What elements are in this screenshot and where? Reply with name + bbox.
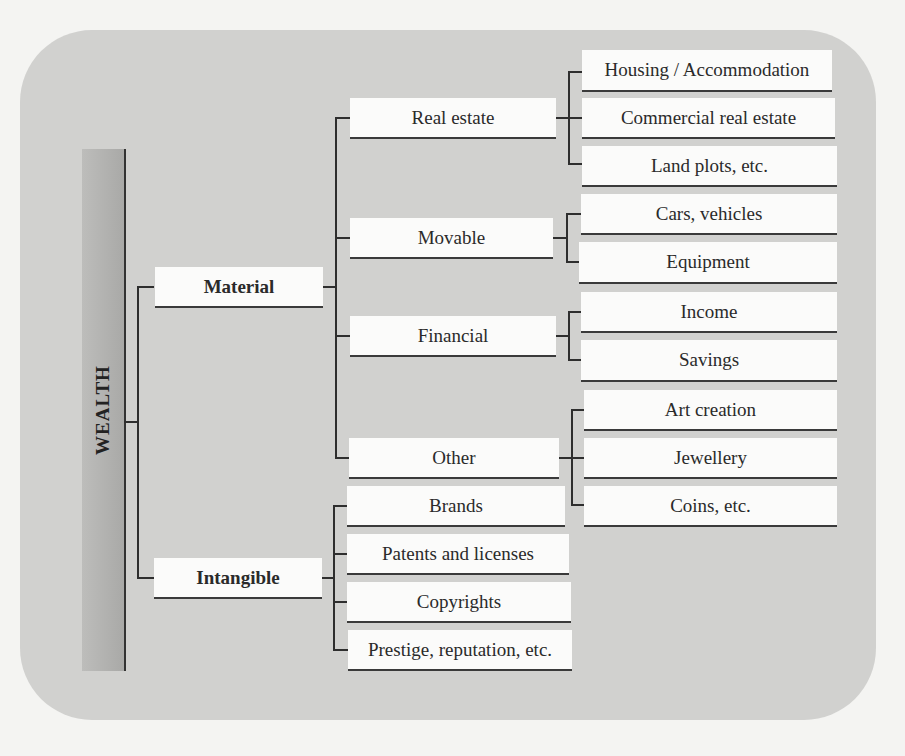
node-copyrights: Copyrights: [347, 582, 571, 623]
connector: [566, 213, 582, 215]
node-label: Real estate: [412, 107, 495, 129]
node-coins: Coins, etc.: [584, 486, 837, 527]
node-label: Art creation: [665, 399, 756, 421]
node-land-plots: Land plots, etc.: [582, 146, 837, 187]
node-commercial: Commercial real estate: [582, 98, 835, 139]
connector: [571, 409, 585, 411]
node-income: Income: [581, 292, 837, 333]
node-movable: Movable: [350, 218, 553, 259]
node-prestige: Prestige, reputation, etc.: [348, 630, 572, 671]
node-intangible: Intangible: [154, 558, 322, 599]
connector: [333, 505, 348, 507]
node-brands: Brands: [347, 486, 565, 527]
connector: [333, 505, 335, 651]
connector: [137, 286, 154, 288]
node-equipment: Equipment: [579, 242, 837, 284]
connector: [335, 335, 350, 337]
connector: [335, 117, 350, 119]
connector: [571, 504, 585, 506]
connector: [335, 457, 350, 459]
node-label: Prestige, reputation, etc.: [368, 639, 552, 661]
connector: [568, 311, 570, 361]
node-patents: Patents and licenses: [347, 534, 569, 575]
connector: [568, 311, 582, 313]
connector: [568, 163, 582, 165]
connector: [335, 237, 350, 239]
node-housing: Housing / Accommodation: [582, 50, 832, 92]
node-label: Commercial real estate: [621, 107, 796, 129]
node-savings: Savings: [581, 340, 837, 382]
node-label: Jewellery: [674, 447, 747, 469]
node-label: Coins, etc.: [670, 495, 751, 517]
connector: [566, 213, 568, 263]
node-material: Material: [155, 267, 323, 308]
connector: [333, 649, 348, 651]
node-label: Material: [204, 276, 275, 298]
node-label: Intangible: [196, 567, 279, 589]
node-label: Brands: [429, 495, 483, 517]
node-financial: Financial: [350, 316, 556, 357]
node-label: Housing / Accommodation: [605, 59, 810, 81]
connector: [333, 553, 348, 555]
connector: [333, 601, 348, 603]
connector: [137, 577, 154, 579]
node-label: Copyrights: [417, 591, 501, 613]
node-label: Income: [681, 301, 738, 323]
node-label: Savings: [679, 349, 739, 371]
node-art: Art creation: [584, 390, 837, 431]
wealth-label: WEALTH: [92, 365, 114, 455]
node-label: Other: [432, 447, 475, 469]
node-jewellery: Jewellery: [584, 438, 837, 479]
node-label: Equipment: [666, 251, 749, 273]
node-label: Patents and licenses: [382, 543, 534, 565]
node-real-estate: Real estate: [350, 98, 556, 139]
node-other: Other: [349, 438, 559, 479]
connector: [568, 117, 582, 119]
connector: [568, 71, 582, 73]
connector: [335, 117, 337, 459]
node-label: Movable: [418, 227, 486, 249]
wealth-root: WEALTH: [82, 149, 124, 671]
node-cars: Cars, vehicles: [581, 194, 837, 235]
node-label: Financial: [418, 325, 489, 347]
connector: [568, 359, 582, 361]
node-label: Land plots, etc.: [651, 155, 768, 177]
connector: [137, 286, 139, 578]
node-label: Cars, vehicles: [656, 203, 763, 225]
connector: [571, 457, 585, 459]
